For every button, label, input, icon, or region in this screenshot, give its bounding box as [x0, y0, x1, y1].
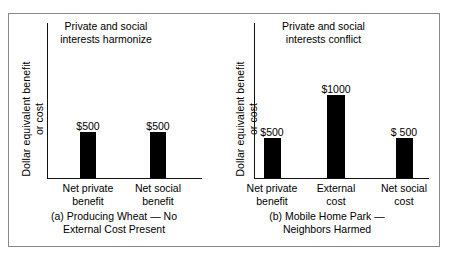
plot-area-b: $500 Net private benefit $1000 External … — [254, 23, 429, 179]
chart-panel-a: Dollar equivalent benefit or cost Privat… — [9, 14, 214, 246]
chart-panel-b: Dollar equivalent benefit or cost Privat… — [214, 14, 439, 246]
bar-category-a-1: Net social benefit — [120, 182, 196, 207]
bar-b-1 — [327, 95, 345, 178]
bar-category-b-2: Net social cost — [366, 182, 442, 207]
bar-value-b-0: $500 — [248, 126, 296, 138]
figure-frame: Dollar equivalent benefit or cost Privat… — [8, 13, 440, 247]
bar-a-0 — [80, 132, 96, 178]
panel-caption-b: (b) Mobile Home Park — Neighbors Harmed — [232, 210, 422, 236]
bar-value-a-0: $500 — [64, 120, 112, 132]
bar-category-b-1: External cost — [298, 182, 374, 207]
bar-category-a-0: Net private benefit — [50, 182, 126, 207]
plot-area-a: $500 Net private benefit $500 Net social… — [47, 23, 202, 179]
bar-a-1 — [150, 132, 166, 178]
bar-value-a-1: $500 — [134, 120, 182, 132]
bar-b-0 — [264, 138, 281, 178]
bar-value-b-1: $1000 — [310, 83, 362, 95]
panel-caption-a: (a) Producing Wheat — No External Cost P… — [19, 210, 209, 236]
bar-value-b-2: $ 500 — [380, 126, 428, 138]
bar-b-2 — [396, 138, 413, 178]
